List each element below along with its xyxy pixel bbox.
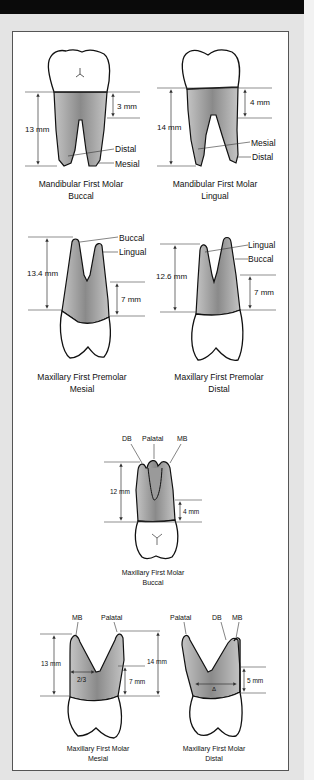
figure-maxillary-molar-distal: Δ 5 mm Palatal DB MB Maxillary First Mol… bbox=[170, 614, 266, 762]
figure-maxillary-molar-buccal: 12 mm 4 mm DB Palatal MB Maxillary First… bbox=[104, 435, 202, 586]
crown-shape bbox=[192, 310, 243, 360]
measurement-5mm: 5 mm bbox=[247, 677, 263, 684]
label-db: DB bbox=[212, 614, 222, 621]
caption-line1: Maxillary First Molar bbox=[67, 745, 130, 753]
label-palatal: Palatal bbox=[101, 614, 123, 621]
figure-mandibular-molar-buccal: 13 mm 3 mm Distal Mesial Mandibular Firs… bbox=[25, 50, 140, 201]
root-shape bbox=[70, 634, 124, 701]
label-palatal: Palatal bbox=[142, 435, 164, 442]
delta-symbol: Δ bbox=[212, 686, 216, 692]
crown-shape bbox=[182, 50, 239, 89]
label-palatal: Palatal bbox=[170, 614, 192, 621]
label-distal: Distal bbox=[252, 152, 273, 162]
crown-shape bbox=[135, 520, 177, 559]
measurement-7mm: 7 mm bbox=[129, 678, 145, 685]
figure-mandibular-molar-lingual: 14 mm 4 mm Mesial Distal Mandibular Firs… bbox=[157, 50, 276, 201]
measurement-7mm: 7 mm bbox=[121, 295, 141, 304]
measurement-14mm: 14 mm bbox=[157, 123, 182, 132]
caption-line1: Maxillary First Premolar bbox=[37, 372, 126, 382]
label-lingual: Lingual bbox=[119, 247, 147, 257]
measurement-13-4mm: 13.4 mm bbox=[27, 269, 58, 278]
root-shape bbox=[62, 239, 109, 323]
caption-line2: Mesial bbox=[88, 755, 109, 762]
measurement-12-6mm: 12.6 mm bbox=[156, 272, 187, 281]
crown-shape bbox=[68, 696, 121, 738]
root-shape bbox=[196, 238, 240, 315]
figure-maxillary-premolar-mesial: 13.4 mm 7 mm Buccal Lingual Maxillary Fi… bbox=[27, 233, 147, 394]
root-shape bbox=[187, 87, 238, 166]
root-shape bbox=[54, 92, 107, 166]
crown-shape bbox=[48, 50, 109, 92]
label-mesial: Mesial bbox=[251, 138, 276, 148]
label-mb: MB bbox=[177, 435, 188, 442]
label-db: DB bbox=[122, 435, 132, 442]
measurement-3mm: 3 mm bbox=[117, 102, 137, 111]
measurement-14mm: 14 mm bbox=[147, 658, 167, 665]
caption-line1: Maxillary First Molar bbox=[122, 569, 185, 577]
caption-line1: Maxillary First Molar bbox=[183, 745, 246, 753]
measurement-4mm: 4 mm bbox=[183, 508, 199, 515]
label-mb: MB bbox=[232, 614, 243, 621]
tooth-diagrams: 13 mm 3 mm Distal Mesial Mandibular Firs… bbox=[0, 0, 314, 780]
measurement-7mm: 7 mm bbox=[254, 288, 274, 297]
caption-line2: Distal bbox=[208, 384, 229, 394]
caption-line2: Distal bbox=[205, 755, 223, 762]
caption-line1: Mandibular First Molar bbox=[39, 179, 124, 189]
figure-maxillary-molar-mesial: 13 mm 14 mm 7 mm 2/3 MB Palatal Maxillar… bbox=[40, 614, 167, 762]
caption-line2: Mesial bbox=[70, 384, 95, 394]
measurement-13mm: 13 mm bbox=[25, 125, 50, 134]
measurement-4mm: 4 mm bbox=[250, 98, 270, 107]
figure-maxillary-premolar-distal: 12.6 mm 7 mm Lingual Buccal Maxillary Fi… bbox=[156, 238, 276, 395]
caption-line1: Maxillary First Premolar bbox=[174, 372, 263, 382]
caption-line2: Buccal bbox=[142, 579, 163, 586]
measurement-12mm: 12 mm bbox=[110, 488, 130, 495]
measurement-two-thirds: 2/3 bbox=[77, 676, 86, 683]
label-distal: Distal bbox=[115, 144, 136, 154]
caption-line2: Buccal bbox=[68, 191, 94, 201]
crown-shape bbox=[190, 692, 242, 736]
label-buccal: Buccal bbox=[248, 254, 274, 264]
label-mesial: Mesial bbox=[115, 159, 140, 169]
label-lingual: Lingual bbox=[248, 240, 276, 250]
label-mb: MB bbox=[72, 614, 83, 621]
measurement-13mm: 13 mm bbox=[41, 660, 61, 667]
root-shape bbox=[182, 635, 240, 698]
caption-line2: Lingual bbox=[201, 191, 229, 201]
label-buccal: Buccal bbox=[119, 233, 145, 243]
caption-line1: Mandibular First Molar bbox=[173, 179, 258, 189]
